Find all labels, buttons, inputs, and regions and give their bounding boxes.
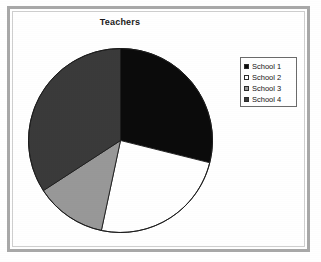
legend-item-school-2[interactable]: School 2 [244,72,296,83]
legend-label: School 2 [252,72,281,83]
legend-label: School 4 [252,94,281,105]
legend-swatch-icon [244,64,249,69]
chart-title: Teachers [0,17,240,27]
legend-item-school-3[interactable]: School 3 [244,83,296,94]
chart-figure: Teachers School 1 School 2 School 3 Scho… [0,0,321,262]
legend-item-school-4[interactable]: School 4 [244,94,296,105]
legend-swatch-icon [244,75,249,80]
legend: School 1 School 2 School 3 School 4 [240,57,297,107]
pie-slice-group [28,49,212,233]
pie-chart [28,48,213,233]
legend-swatch-icon [244,97,249,102]
pie-svg [28,48,213,233]
legend-label: School 1 [252,61,281,72]
legend-swatch-icon [244,86,249,91]
legend-label: School 3 [252,83,281,94]
legend-item-school-1[interactable]: School 1 [244,61,296,72]
